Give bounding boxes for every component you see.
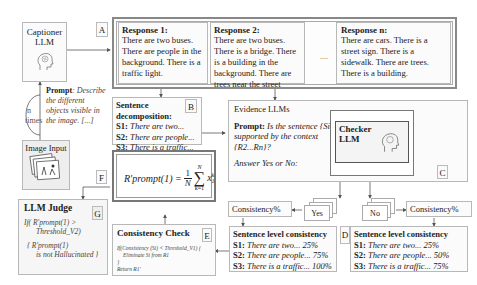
item-text: There are people... 50% xyxy=(368,250,450,260)
evidence-prompt-label: Prompt: xyxy=(234,121,265,131)
judge-line: is not Hallucinated } xyxy=(24,250,102,259)
item-text: There is a traffic... 75% xyxy=(368,261,449,271)
sentence-consistency-title: Sentence level consistency xyxy=(354,229,464,240)
response-1: Response 1: There are two buses. There a… xyxy=(118,22,208,84)
formula-lhs: R′prompt(1) = xyxy=(124,173,182,184)
label-e: E xyxy=(202,228,212,242)
formula-fraction: 1 N xyxy=(184,169,192,188)
label-c: C xyxy=(437,165,448,179)
response-n: Response n: There are cars. There is a s… xyxy=(336,22,451,84)
formula: R′prompt(1) = 1 N N ∑ k=1 xk1 xyxy=(124,164,215,192)
sigma-icon: ∑ xyxy=(194,171,205,185)
item-id: S1: xyxy=(233,240,245,250)
item-text: There is a traffic... 100% xyxy=(247,261,332,271)
captioner-llm-box: Captioner LLM xyxy=(22,22,67,82)
code-line: } xyxy=(117,259,211,266)
judge-line: Threshold_V2) xyxy=(24,227,102,236)
response-1-text: There are two buses. There are people in… xyxy=(122,35,204,79)
code-line: Return R1' xyxy=(117,266,211,273)
formula-box: R′prompt(1) = 1 N N ∑ k=1 xk1 xyxy=(112,150,216,202)
responses-ellipsis: .... xyxy=(320,52,328,61)
brain-head-icon xyxy=(378,130,402,156)
response-1-title: Response 1: xyxy=(122,25,204,35)
image-input-box: Image Input xyxy=(22,140,70,190)
captioner-title-line2: LLM xyxy=(23,37,66,47)
frac-num: 1 xyxy=(185,169,190,178)
frac-den: N xyxy=(185,179,191,188)
evidence-prompt: Prompt: Is the sentence {Si} supported b… xyxy=(234,121,334,153)
consistency-item: S3: There is a traffic... 100% xyxy=(233,261,333,272)
sentence-consistency-yes: Sentence level consistency S1: There are… xyxy=(229,226,337,272)
item-id: S2: xyxy=(354,250,366,260)
item-id: S1: xyxy=(116,121,128,131)
decomposition-item: S2: There are people... xyxy=(116,132,198,143)
item-id: S3: xyxy=(354,261,366,271)
item-id: S3: xyxy=(233,261,245,271)
judge-line: If( R′prompt(1) > xyxy=(24,218,102,227)
consistency-pct-no: Consistency% xyxy=(406,201,472,217)
image-stack-icon xyxy=(29,153,63,183)
code-line: Eliminate Si from R1 xyxy=(117,252,211,259)
sentence-consistency-no: Sentence level consistency S1: There are… xyxy=(350,226,468,272)
formula-sum: N ∑ k=1 xyxy=(194,164,205,192)
item-id: S1: xyxy=(354,240,366,250)
consistency-check-box: Consistency Check If(Consistency (Si) < … xyxy=(112,224,216,276)
formula-term: xk1 xyxy=(207,172,214,185)
image-input-title: Image Input xyxy=(23,143,69,153)
item-id: S2: xyxy=(116,132,128,142)
checker-llm-box: Checker LLM xyxy=(335,121,409,163)
response-2-title: Response 2: xyxy=(214,25,301,35)
sum-bottom: k=1 xyxy=(195,185,204,192)
item-text: There are two... 25% xyxy=(247,240,318,250)
response-2-text: There are two buses. There is a bridge. … xyxy=(214,35,301,90)
item-text: There are people... xyxy=(130,132,195,142)
label-d: D xyxy=(340,226,350,244)
consistency-pct-yes: Consistency% xyxy=(228,201,292,217)
response-n-text: There are cars. There is a street sign. … xyxy=(341,35,446,79)
code-line: If(Consistency (Si) < Threshold_V1) { xyxy=(117,245,211,252)
consistency-item: S1: There are two... 25% xyxy=(233,240,333,251)
label-f: F xyxy=(96,170,107,184)
llm-judge-rule: If( R′prompt(1) > Threshold_V2) { R′prom… xyxy=(24,218,102,259)
yes-card: Yes xyxy=(304,205,330,221)
label-b: B xyxy=(185,99,197,113)
label-g: G xyxy=(92,206,103,220)
label-a: A xyxy=(96,22,108,37)
consistency-check-title: Consistency Check xyxy=(117,228,211,238)
item-text: There are two... xyxy=(130,121,184,131)
decomposition-item: S1: There are two... xyxy=(116,121,198,132)
caption-prompt: Prompt: Describe the different objects v… xyxy=(46,86,106,126)
term-sub: 1 xyxy=(212,178,215,184)
item-text: There are two... 25% xyxy=(368,240,439,250)
brain-head-icon xyxy=(34,51,56,73)
sentence-consistency-title: Sentence level consistency xyxy=(233,229,333,240)
judge-line: { R′prompt(1) xyxy=(24,241,102,250)
llm-judge-title: LLM Judge xyxy=(24,203,102,213)
no-card: No xyxy=(362,205,388,221)
response-2: Response 2: There are two buses. There i… xyxy=(210,22,305,84)
response-n-title: Response n: xyxy=(341,25,446,35)
consistency-item: S2: There are people... 50% xyxy=(354,250,464,261)
captioner-title-line1: Captioner xyxy=(23,27,66,37)
loop-n: n xyxy=(27,106,31,115)
consistency-item: S2: There are people... 75% xyxy=(233,250,333,261)
consistency-check-code: If(Consistency (Si) < Threshold_V1) { El… xyxy=(117,245,211,273)
consistency-item: S3: There is a traffic... 75% xyxy=(354,261,464,272)
loop-times: times xyxy=(25,116,42,125)
caption-prompt-label: Prompt xyxy=(46,86,72,95)
consistency-item: S1: There are two... 25% xyxy=(354,240,464,251)
item-text: There are people... 75% xyxy=(247,250,329,260)
item-id: S2: xyxy=(233,250,245,260)
